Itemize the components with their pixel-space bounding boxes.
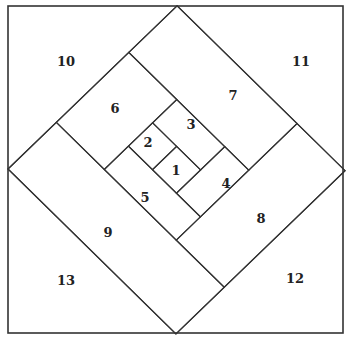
piece-label-9: 9 xyxy=(103,226,112,239)
piece-label-11: 11 xyxy=(292,55,310,68)
piece-label-2: 2 xyxy=(143,136,152,149)
piece-label-13: 13 xyxy=(57,274,75,287)
piece-label-3: 3 xyxy=(186,118,195,131)
log-cabin-diagram: 1 2 3 4 5 6 7 8 9 10 11 12 13 xyxy=(0,0,351,348)
piece-label-4: 4 xyxy=(221,177,230,190)
piece-label-6: 6 xyxy=(110,102,119,115)
piece-label-10: 10 xyxy=(57,55,75,68)
piece-label-8: 8 xyxy=(256,212,265,225)
piece-label-7: 7 xyxy=(228,89,237,102)
piece-label-1: 1 xyxy=(171,164,180,177)
piece-label-12: 12 xyxy=(286,272,304,285)
piece-label-5: 5 xyxy=(140,191,149,204)
